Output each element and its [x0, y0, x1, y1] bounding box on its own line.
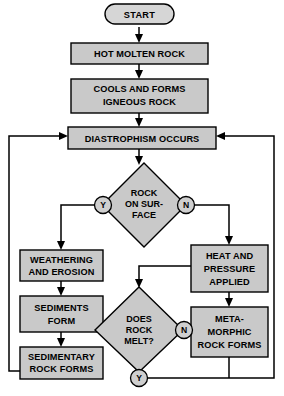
node-does-rock-melt-line1: DOES	[126, 314, 152, 324]
node-does-rock-melt-line2: ROCK	[126, 325, 153, 335]
node-diastrophism-label: DIASTROPHISM OCCURS	[85, 134, 200, 144]
node-diastrophism-occurs: DIASTROPHISM OCCURS	[68, 127, 216, 149]
node-heat-pressure-line1: HEAT AND	[206, 251, 254, 261]
node-metamorphic-rock-forms: META- MORPHIC ROCK FORMS	[191, 307, 268, 357]
node-rock-on-surface-line3: FACE	[132, 210, 156, 220]
connector-weathering-to-sediments	[57, 281, 65, 296]
node-does-rock-melt-line3: MELT?	[124, 336, 153, 346]
node-cools-line1: COOLS AND FORMS	[93, 84, 185, 94]
node-metamorphic-line1: META-	[215, 314, 244, 324]
connector-start-to-hot-molten	[135, 27, 143, 43]
connector-sediments-to-sedimentary	[57, 332, 65, 347]
node-cools-and-forms-igneous-rock: COOLS AND FORMS IGNEOUS ROCK	[71, 79, 208, 113]
connector-diastrophism-to-surface-decision	[135, 149, 143, 165]
node-hot-molten-rock: HOT MOLTEN ROCK	[71, 43, 208, 64]
node-sediments-form: SEDIMENTS FORM	[20, 296, 103, 332]
node-metamorphic-line3: ROCK FORMS	[198, 340, 262, 350]
node-sedimentary-line1: SEDIMENTARY	[28, 352, 95, 362]
badge-surface-no: N	[178, 197, 195, 214]
flowchart-canvas: START HOT MOLTEN ROCK COOLS AND FORMS IG…	[0, 0, 284, 396]
flowchart-diagram: START HOT MOLTEN ROCK COOLS AND FORMS IG…	[0, 0, 284, 396]
node-rock-on-surface-line2: ON SUR-	[125, 199, 163, 209]
node-start: START	[105, 4, 174, 24]
badge-melt-yes: Y	[131, 370, 148, 387]
node-weathering-line2: AND EROSION	[29, 267, 95, 277]
node-weathering-line1: WEATHERING	[30, 255, 93, 265]
connector-cools-to-diastrophism	[135, 113, 143, 127]
node-sedimentary-rock-forms: SEDIMENTARY ROCK FORMS	[20, 347, 103, 379]
node-sedimentary-line2: ROCK FORMS	[30, 364, 94, 374]
badge-melt-no-label: N	[181, 325, 187, 335]
node-rock-on-surface-decision: ROCK ON SUR- FACE	[102, 163, 186, 247]
badge-surface-no-label: N	[183, 200, 189, 210]
node-start-label: START	[124, 10, 156, 20]
node-heat-pressure-line3: APPLIED	[209, 277, 250, 287]
connector-surface-yes-to-weathering	[57, 205, 103, 250]
badge-melt-no: N	[176, 322, 193, 339]
connector-heat-pressure-to-melt-decision	[135, 266, 191, 288]
node-sediments-line1: SEDIMENTS	[34, 303, 89, 313]
node-heat-and-pressure-applied: HEAT AND PRESSURE APPLIED	[191, 245, 268, 292]
node-does-rock-melt-decision: DOES ROCK MELT?	[95, 287, 183, 372]
connector-hot-molten-to-cools	[135, 64, 143, 79]
node-metamorphic-line2: MORPHIC	[207, 327, 251, 337]
node-weathering-and-erosion: WEATHERING AND EROSION	[20, 250, 103, 281]
badge-surface-yes: Y	[95, 197, 112, 214]
node-hot-molten-rock-label: HOT MOLTEN ROCK	[94, 49, 185, 59]
node-cools-line2: IGNEOUS ROCK	[103, 97, 176, 107]
badge-melt-yes-label: Y	[136, 373, 142, 383]
badge-surface-yes-label: Y	[100, 200, 106, 210]
node-rock-on-surface-line1: ROCK	[131, 188, 158, 198]
connector-heat-pressure-to-metamorphic	[225, 292, 233, 307]
connector-surface-no-to-heat-pressure	[186, 205, 233, 245]
node-heat-pressure-line2: PRESSURE	[204, 264, 255, 274]
node-sediments-line2: FORM	[48, 316, 76, 326]
